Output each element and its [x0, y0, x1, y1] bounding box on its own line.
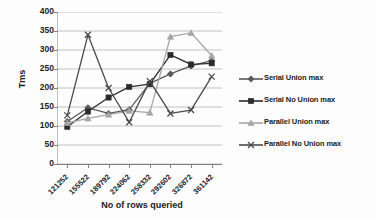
data-point-diamond [167, 71, 173, 77]
x-tick-mark [191, 164, 192, 168]
legend-marker-x-icon [238, 137, 264, 149]
series-1 [64, 57, 215, 124]
y-tick-label: 100 [28, 121, 54, 130]
data-point-square [168, 52, 173, 57]
data-point-diamond [248, 76, 254, 82]
y-tick-label: 350 [28, 26, 54, 35]
legend-key-svg [238, 117, 264, 129]
data-point-x [126, 119, 132, 125]
x-tick-mark [150, 164, 151, 168]
x-tick-mark [109, 164, 110, 168]
data-point-square [248, 98, 253, 103]
chart-legend: Serial Union maxSerial No Union maxParal… [238, 66, 374, 154]
data-point-square [127, 84, 132, 89]
plot-svg [57, 12, 222, 164]
y-tick-label: 50 [28, 140, 54, 149]
y-tick-label: 0 [28, 159, 54, 168]
legend-key-svg [238, 73, 264, 85]
legend-item-4[interactable]: Parallel No Union max [238, 132, 374, 154]
x-tick-mark [67, 164, 68, 168]
legend-label: Serial Union max [264, 73, 323, 82]
legend-key-svg [238, 139, 264, 151]
legend-marker-square-icon [238, 93, 264, 105]
y-tick-label: 300 [28, 45, 54, 54]
legend-item-1[interactable]: Serial Union max [238, 66, 374, 88]
data-point-square [106, 95, 111, 100]
x-axis-line [57, 164, 222, 165]
y-tick-label: 400 [28, 7, 54, 16]
legend-label: Serial No Union max [264, 95, 335, 104]
y-tick-label: 150 [28, 102, 54, 111]
legend-label: Parallel Union max [264, 117, 329, 126]
data-point-square [85, 109, 90, 114]
x-tick-mark [212, 164, 213, 168]
legend-key-svg [238, 95, 264, 107]
legend-label: Parallel No Union max [264, 139, 341, 148]
y-tick-label: 200 [28, 83, 54, 92]
data-point-square [188, 62, 193, 67]
y-tick-label: 250 [28, 64, 54, 73]
data-point-x [209, 74, 215, 80]
line-chart: Tms 050100150200250300350400 12125215552… [0, 0, 375, 220]
data-point-triangle [188, 30, 194, 36]
data-point-square [209, 61, 214, 66]
legend-marker-diamond-icon [238, 71, 264, 83]
y-axis-tick-labels: 050100150200250300350400 [26, 0, 54, 220]
y-tick-mark [54, 164, 58, 165]
legend-item-2[interactable]: Serial No Union max [238, 88, 374, 110]
x-axis-title: No of rows queried [52, 200, 232, 210]
x-tick-mark [170, 164, 171, 168]
plot-area [57, 12, 222, 164]
x-tick-mark [88, 164, 89, 168]
x-tick-mark [129, 164, 130, 168]
legend-marker-triangle-icon [238, 115, 264, 127]
legend-item-3[interactable]: Parallel Union max [238, 110, 374, 132]
